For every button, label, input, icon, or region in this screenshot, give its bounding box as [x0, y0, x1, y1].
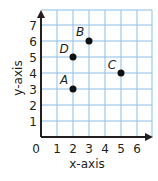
point-label-a: A: [59, 73, 68, 87]
x-tick-label: 5: [117, 142, 125, 156]
y-tick-label: 1: [29, 115, 37, 129]
x-tick-label: 6: [133, 142, 141, 156]
y-tick-label: 5: [29, 51, 37, 65]
x-tick-labels: 0123456: [32, 142, 141, 156]
data-point-a: [70, 86, 77, 93]
data-point-b: [86, 38, 93, 45]
y-tick-label: 6: [29, 35, 37, 49]
point-label-c: C: [108, 58, 117, 72]
x-tick-label: 2: [69, 142, 77, 156]
x-tick-label: 1: [53, 142, 61, 156]
data-point-c: [118, 70, 125, 77]
y-tick-labels: 1234567: [29, 19, 37, 129]
data-points: ABCD: [59, 25, 125, 93]
point-label-d: D: [59, 42, 68, 56]
x-tick-label: 0: [32, 142, 40, 156]
point-label-b: B: [76, 25, 84, 39]
y-tick-label: 4: [29, 67, 37, 81]
y-tick-label: 7: [29, 19, 37, 33]
y-axis-arrow-icon: [37, 10, 45, 18]
y-axis-label: y-axis: [11, 60, 25, 95]
y-tick-label: 2: [29, 99, 37, 113]
grid-lines: [41, 10, 152, 137]
x-tick-label: 4: [101, 142, 109, 156]
x-tick-label: 3: [85, 142, 93, 156]
data-point-d: [70, 54, 77, 61]
x-axis-label: x-axis: [69, 157, 104, 171]
y-tick-label: 3: [29, 83, 37, 97]
coordinate-plane: 0123456 1234567 x-axis y-axis ABCD: [0, 0, 158, 181]
